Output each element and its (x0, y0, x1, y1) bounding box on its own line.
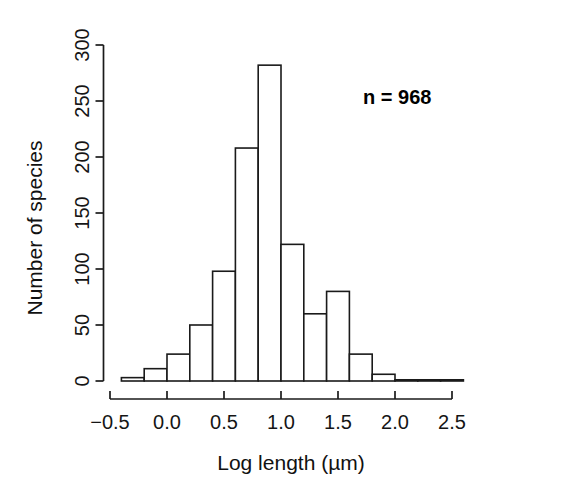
bars-group (121, 65, 463, 381)
histogram-bar (167, 354, 190, 381)
y-tick-label: 200 (71, 140, 93, 173)
x-tick-label: 0.0 (153, 411, 181, 433)
histogram-bar (258, 65, 281, 381)
x-tick-label: 2.5 (438, 411, 466, 433)
x-axis-group (110, 391, 452, 399)
histogram-bar (395, 380, 418, 381)
histogram-bar (121, 378, 144, 381)
histogram-bar (441, 380, 464, 381)
histogram-bar (190, 325, 213, 381)
histogram-bar (281, 244, 304, 381)
histogram-bar (327, 291, 350, 381)
x-tick-label: −0.5 (90, 411, 129, 433)
histogram-figure: 050100150200250300−0.50.00.51.01.52.02.5… (0, 0, 572, 501)
y-tick-label: 300 (71, 28, 93, 61)
y-axis-group (96, 45, 104, 381)
x-tick-label: 0.5 (210, 411, 238, 433)
histogram-bar (304, 314, 327, 381)
histogram-bar (235, 148, 258, 381)
x-tick-label: 1.0 (267, 411, 295, 433)
x-tick-label: 1.5 (324, 411, 352, 433)
y-tick-label: 250 (71, 84, 93, 117)
histogram-bar (213, 271, 236, 381)
x-axis-title: Log length (µm) (217, 451, 365, 474)
y-axis-title: Number of species (23, 140, 46, 315)
annotations-group: n = 968 (363, 86, 431, 108)
histogram-bar (349, 354, 372, 381)
histogram-bar (372, 374, 395, 381)
histogram-bar (144, 369, 167, 381)
y-tick-label: 50 (71, 314, 93, 336)
sample-size-annotation: n = 968 (363, 86, 431, 108)
y-tick-label: 150 (71, 196, 93, 229)
x-tick-label: 2.0 (381, 411, 409, 433)
y-tick-label: 100 (71, 252, 93, 285)
y-tick-label: 0 (71, 375, 93, 386)
histogram-plot: 050100150200250300−0.50.00.51.01.52.02.5… (0, 0, 572, 501)
histogram-bar (418, 380, 441, 381)
